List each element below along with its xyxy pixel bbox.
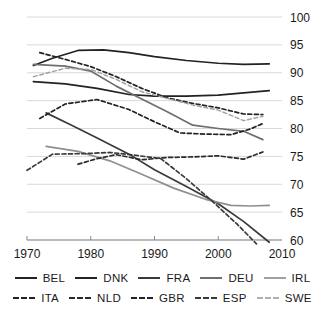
series-line-nld [78, 152, 263, 164]
series-line-ita [40, 53, 263, 115]
legend-swatch-swe-icon [257, 297, 279, 299]
legend-item-esp[interactable]: ESP [195, 292, 247, 304]
legend-swatch-deu-icon [200, 277, 222, 279]
series-line-irl [46, 146, 269, 206]
legend-label: BEL [43, 272, 66, 284]
legend-swatch-nld-icon [69, 297, 91, 299]
y-axis-tick-label: 95 [290, 38, 304, 52]
x-axis-tick-label: 2010 [269, 247, 296, 261]
legend-item-bel[interactable]: BEL [15, 272, 66, 284]
legend-label: NLD [97, 292, 121, 304]
legend-swatch-irl-icon [264, 277, 286, 279]
legend-row-2: ITANLDGBRESPSWE [0, 288, 325, 308]
y-axis-tick-label: 80 [290, 122, 304, 136]
legend-item-swe[interactable]: SWE [257, 292, 312, 304]
legend-swatch-ita-icon [13, 297, 35, 299]
legend-label: ITA [41, 292, 59, 304]
legend-item-nld[interactable]: NLD [69, 292, 121, 304]
legend-item-gbr[interactable]: GBR [131, 292, 185, 304]
legend-item-ita[interactable]: ITA [13, 292, 59, 304]
legend-label: FRA [166, 272, 190, 284]
y-axis-tick-label: 90 [290, 66, 304, 80]
legend-swatch-dnk-icon [75, 277, 97, 279]
legend-item-irl[interactable]: IRL [264, 272, 311, 284]
x-axis-tick-label: 2000 [205, 247, 232, 261]
legend-item-dnk[interactable]: DNK [75, 272, 128, 284]
legend-label: DNK [103, 272, 128, 284]
legend-item-deu[interactable]: DEU [200, 272, 253, 284]
y-axis-tick-label: 60 [290, 234, 304, 248]
y-axis-tick-label: 65 [290, 206, 304, 220]
legend-label: GBR [159, 292, 185, 304]
x-axis-tick-label: 1980 [77, 247, 104, 261]
y-axis-tick-label: 75 [290, 150, 304, 164]
x-axis-tick-label: 1990 [141, 247, 168, 261]
series-line-esp [27, 152, 257, 243]
chart-svg: 606570758085909510019701980199020002010 [0, 0, 325, 268]
chart-legend: BELDNKFRADEUIRL ITANLDGBRESPSWE [0, 268, 325, 320]
legend-label: SWE [285, 292, 312, 304]
legend-label: IRL [292, 272, 311, 284]
legend-label: ESP [223, 292, 247, 304]
line-chart: 606570758085909510019701980199020002010 … [0, 0, 325, 320]
legend-swatch-esp-icon [195, 297, 217, 299]
plot-area: 606570758085909510019701980199020002010 [0, 0, 325, 268]
legend-label: DEU [228, 272, 253, 284]
y-axis-tick-label: 100 [290, 11, 310, 25]
series-line-dnk [33, 82, 269, 97]
legend-swatch-fra-icon [138, 277, 160, 279]
legend-swatch-bel-icon [15, 277, 37, 279]
x-axis-tick-label: 1970 [14, 247, 41, 261]
y-axis-tick-label: 70 [290, 178, 304, 192]
legend-swatch-gbr-icon [131, 297, 153, 299]
series-line-bel [33, 50, 269, 66]
y-axis-tick-label: 85 [290, 94, 304, 108]
legend-item-fra[interactable]: FRA [138, 272, 190, 284]
legend-row-1: BELDNKFRADEUIRL [0, 268, 325, 288]
